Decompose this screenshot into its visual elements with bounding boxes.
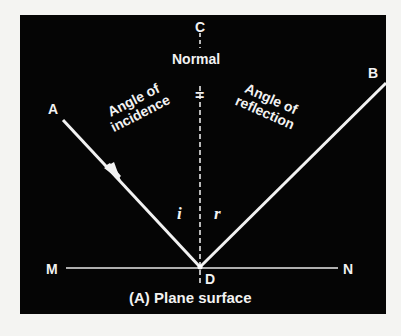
label-normal: Normal: [172, 52, 220, 66]
label-d: D: [205, 272, 215, 286]
incident-ray: [63, 120, 200, 267]
label-c: C: [195, 20, 205, 34]
equals-sign: =: [195, 88, 204, 104]
angle-symbol-i: i: [177, 205, 182, 222]
label-b: B: [368, 66, 378, 80]
figure-caption: (A) Plane surface: [129, 290, 252, 305]
label-a: A: [48, 102, 58, 116]
label-n: N: [343, 262, 353, 276]
point-d-marker: [198, 265, 203, 270]
angle-symbol-r: r: [214, 205, 221, 222]
label-m: M: [46, 262, 58, 276]
